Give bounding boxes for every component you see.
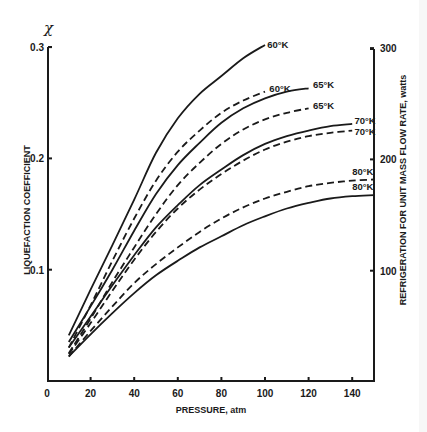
x-tick-label: 140 bbox=[344, 388, 361, 399]
x-tick-label: 100 bbox=[257, 388, 274, 399]
curves bbox=[69, 45, 374, 357]
liquefaction-chart: 020406080100120140 0.10.20.3 100200300 6… bbox=[0, 0, 427, 432]
axes bbox=[47, 47, 375, 382]
x-tick-label: 120 bbox=[300, 388, 317, 399]
curve-80k-dashed bbox=[69, 180, 374, 357]
curve-label-80k-dashed: 80°K bbox=[352, 166, 373, 177]
curve-labels: 60°K60°K65°K65°K70°K70°K80°K80°K bbox=[267, 39, 376, 192]
y2-axis-title: REFRIGERATION FOR UNIT MASS FLOW RATE, w… bbox=[398, 75, 408, 306]
chi-symbol: χ bbox=[43, 19, 54, 37]
curve-label-65k-dashed: 65°K bbox=[313, 100, 334, 111]
curve-65k-solid bbox=[69, 88, 309, 342]
curve-label-80k-solid: 80°K bbox=[352, 181, 373, 192]
curve-label-70k-dashed: 70°K bbox=[354, 126, 375, 137]
y2-tick-label: 300 bbox=[380, 43, 397, 54]
x-tick-label: 20 bbox=[85, 388, 97, 399]
curve-label-70k-solid: 70°K bbox=[354, 115, 375, 126]
curve-label-65k-solid: 65°K bbox=[313, 79, 334, 90]
x-tick-label: 80 bbox=[216, 388, 228, 399]
curve-label-60k-solid: 60°K bbox=[267, 39, 288, 50]
x-tick-label: 0 bbox=[44, 388, 50, 399]
curve-80k-solid bbox=[69, 195, 374, 356]
curve-65k-dashed bbox=[69, 108, 309, 353]
y2-tick-label: 100 bbox=[380, 266, 397, 277]
y-tick-label: 0.1 bbox=[30, 265, 44, 276]
x-axis-title: PRESSURE, atm bbox=[176, 405, 247, 415]
curve-label-60k-dashed: 60°K bbox=[269, 83, 290, 94]
x-tick-label: 40 bbox=[129, 388, 141, 399]
y-axis-title: LIQUEFACTION COEFFICIENT bbox=[22, 145, 32, 275]
curve-60k-solid bbox=[69, 45, 265, 336]
y2-tick-label: 200 bbox=[380, 154, 397, 165]
x-tick-label: 60 bbox=[172, 388, 184, 399]
y-tick-label: 0.3 bbox=[30, 42, 44, 53]
y-tick-label: 0.2 bbox=[30, 153, 44, 164]
